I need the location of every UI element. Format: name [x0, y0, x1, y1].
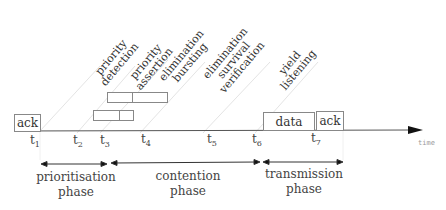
data-frame: data — [263, 112, 315, 131]
phase-prioritisation: prioritisationphase — [36, 170, 116, 200]
ack-end-label: ack — [317, 113, 343, 129]
time-axis — [14, 130, 410, 131]
tick-t6: t6 — [252, 132, 262, 148]
axis-arrowhead-icon — [408, 126, 423, 134]
phase-arrows — [41, 160, 343, 167]
burst-slot-upper-left — [107, 92, 133, 103]
ack-start-label: ack — [15, 115, 40, 131]
phase-transmission: transmissionphase — [264, 167, 344, 197]
tick-t3: t3 — [100, 133, 110, 149]
tick-t4: t4 — [141, 132, 151, 148]
tick-t7: t7 — [311, 131, 321, 147]
tick-t2: t2 — [73, 133, 83, 149]
burst-slot-lower-left — [93, 110, 120, 121]
tick-t5: t5 — [207, 132, 217, 148]
burst-slot-lower-right — [119, 110, 134, 121]
ack-frame-end: ack — [316, 111, 344, 131]
ack-frame-start: ack — [14, 114, 41, 132]
phase-contention: contentionphase — [148, 169, 228, 199]
data-label: data — [264, 114, 314, 130]
burst-slot-upper-right — [132, 92, 168, 103]
tick-t1: t1 — [30, 133, 40, 149]
timing-diagram: ack data ack t1 t2 t3 t4 t5 t6 t7 time p… — [0, 0, 446, 210]
time-axis-label: time — [418, 139, 435, 147]
